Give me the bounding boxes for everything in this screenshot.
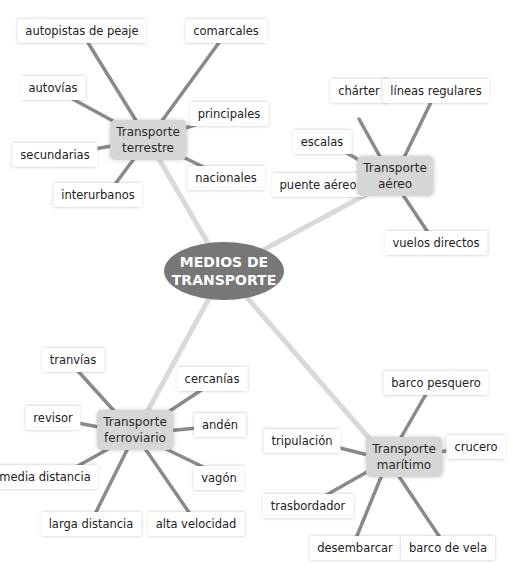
leaf-autopistas-de-peaje[interactable]: autopistas de peaje <box>17 19 146 43</box>
mind-map: autopistas de peaje comarcales autovías … <box>0 0 513 580</box>
central-topic-medios-de-transporte[interactable]: MEDIOS DE TRANSPORTE <box>164 242 284 300</box>
center-label-line1: MEDIOS DE <box>180 253 268 271</box>
hub-transporte-maritimo[interactable]: Transporte marítimo <box>366 437 442 477</box>
leaf-autovias[interactable]: autovías <box>21 76 86 100</box>
leaf-revisor[interactable]: revisor <box>25 406 80 430</box>
leaf-puente-aereo[interactable]: puente aéreo <box>272 173 365 197</box>
hub-label-line1: Transporte <box>103 414 167 430</box>
hub-label-line1: Transporte <box>116 124 180 140</box>
leaf-cercanias[interactable]: cercanías <box>177 367 248 391</box>
leaf-vuelos-directos[interactable]: vuelos directos <box>385 231 488 255</box>
leaf-alta-velocidad[interactable]: alta velocidad <box>148 512 245 536</box>
leaf-lineas-regulares[interactable]: líneas regulares <box>382 79 489 103</box>
center-label-line2: TRANSPORTE <box>172 271 276 289</box>
leaf-charter[interactable]: chárter <box>330 79 388 103</box>
leaf-secundarias[interactable]: secundarias <box>12 143 97 167</box>
leaf-barco-de-vela[interactable]: barco de vela <box>401 536 495 560</box>
leaf-interurbanos[interactable]: interurbanos <box>53 183 142 207</box>
leaf-nacionales[interactable]: nacionales <box>187 166 265 190</box>
hub-label-line2: terrestre <box>116 140 180 156</box>
hub-label-line1: Transporte <box>363 160 427 176</box>
leaf-trasbordador[interactable]: trasbordador <box>263 494 354 518</box>
leaf-tripulacion[interactable]: tripulación <box>263 429 340 453</box>
leaf-barco-pesquero[interactable]: barco pesquero <box>383 371 488 395</box>
leaf-larga-distancia[interactable]: larga distancia <box>41 512 142 536</box>
leaf-principales[interactable]: principales <box>190 102 269 126</box>
hub-transporte-terrestre[interactable]: Transporte terrestre <box>110 120 186 160</box>
leaf-desembarcar[interactable]: desembarcar <box>309 536 401 560</box>
hub-label-line2: aéreo <box>363 176 427 192</box>
hub-transporte-ferroviario[interactable]: Transporte ferroviario <box>97 410 173 450</box>
hub-label-line1: Transporte <box>372 441 436 457</box>
hub-label-line2: marítimo <box>372 457 436 473</box>
hub-label-line2: ferroviario <box>103 430 167 446</box>
leaf-crucero[interactable]: crucero <box>446 435 505 459</box>
leaf-vagon[interactable]: vagón <box>193 466 244 490</box>
hub-transporte-aereo[interactable]: Transporte aéreo <box>357 156 433 196</box>
leaf-anden[interactable]: andén <box>194 413 246 437</box>
leaf-media-distancia[interactable]: media distancia <box>0 465 99 489</box>
leaf-comarcales[interactable]: comarcales <box>185 19 267 43</box>
leaf-escalas[interactable]: escalas <box>293 130 352 154</box>
leaf-tranvias[interactable]: tranvías <box>42 348 105 372</box>
